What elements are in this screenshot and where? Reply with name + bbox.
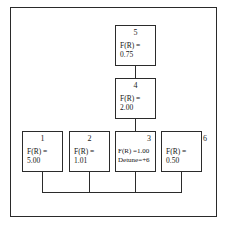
operator-frequency-value-2: 1.01	[74, 156, 106, 165]
connector-drop-6	[181, 172, 182, 192]
operator-frequency-value-5: 0.75	[120, 50, 152, 59]
operator-frequency-ratio-1: F(R) =	[27, 147, 59, 156]
operator-index-5: 5	[116, 28, 155, 37]
operator-box-5[interactable]: 5 F(R) = 0.75	[115, 25, 156, 66]
operator-params-3: F(R) =1.00 Detune=+6	[118, 147, 154, 165]
connector-drop-3	[135, 172, 136, 192]
connector-drop-2	[89, 172, 90, 192]
operator-box-1[interactable]: 1 F(R) = 5.00	[22, 131, 63, 172]
output-bus-rail	[42, 192, 182, 193]
operator-params-1: F(R) = 5.00	[27, 147, 59, 165]
operator-params-4: F(R) = 2.00	[120, 94, 152, 112]
operator-index-2: 2	[70, 134, 109, 143]
figure-canvas: 5 F(R) = 0.75 4 F(R) = 2.00 1 F(R) = 5.0…	[0, 0, 227, 228]
operator-frequency-value-4: 2.00	[120, 103, 152, 112]
operator-frequency-ratio-3: F(R) =1.00	[118, 147, 154, 156]
operator-frequency-ratio-5: F(R) =	[120, 41, 152, 50]
operator-index-1: 1	[23, 134, 62, 143]
operator-frequency-value-1: 5.00	[27, 156, 59, 165]
connector-5-to-4	[135, 66, 136, 78]
operator-box-6[interactable]: F(R) = 0.50	[161, 131, 202, 172]
operator-box-3[interactable]: 3 F(R) =1.00 Detune=+6	[115, 131, 156, 172]
connector-4-to-3	[135, 119, 136, 131]
operator-frequency-ratio-4: F(R) =	[120, 94, 152, 103]
operator-detune-3: Detune=+6	[118, 156, 154, 165]
operator-params-6: F(R) = 0.50	[166, 147, 198, 165]
operator-box-4[interactable]: 4 F(R) = 2.00	[115, 78, 156, 119]
operator-index-4: 4	[116, 81, 155, 90]
operator-params-5: F(R) = 0.75	[120, 41, 152, 59]
operator-index-6: 6	[203, 134, 207, 143]
connector-drop-1	[42, 172, 43, 192]
operator-index-3: 3	[147, 134, 151, 143]
operator-params-2: F(R) = 1.01	[74, 147, 106, 165]
operator-frequency-ratio-6: F(R) =	[166, 147, 198, 156]
operator-frequency-value-6: 0.50	[166, 156, 198, 165]
operator-box-2[interactable]: 2 F(R) = 1.01	[69, 131, 110, 172]
operator-frequency-ratio-2: F(R) =	[74, 147, 106, 156]
